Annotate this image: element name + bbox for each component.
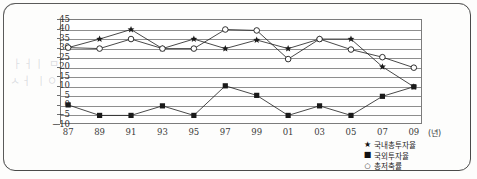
data-point-marker <box>380 54 386 60</box>
data-point-marker <box>222 27 228 33</box>
data-point-marker <box>190 35 197 42</box>
legend-item: ○총저축률 <box>362 161 468 171</box>
legend-marker-icon: ○ <box>362 162 373 170</box>
legend-item-label: 국외투자율 <box>373 150 409 161</box>
data-point-marker <box>97 46 103 52</box>
data-point-marker <box>317 103 322 108</box>
chart-legend: ★국내총투자율■국외투자율○총저축률 <box>362 140 468 172</box>
data-point-marker <box>128 36 134 42</box>
line-chart: 454035302520151050−5−1087899193959799010… <box>36 14 436 126</box>
data-point-marker <box>65 45 71 51</box>
data-point-marker <box>128 113 133 118</box>
series-line <box>68 30 414 87</box>
legend-item: ★국내총투자율 <box>362 140 468 150</box>
data-point-marker <box>286 113 291 118</box>
data-point-marker <box>96 35 103 42</box>
data-point-marker <box>285 56 291 62</box>
data-point-marker <box>285 45 292 52</box>
data-point-marker <box>411 84 416 89</box>
legend-item: ■국외투자율 <box>362 151 468 161</box>
legend-item-label: 국내총투자율 <box>373 139 416 150</box>
data-point-marker <box>160 46 166 52</box>
data-point-marker <box>348 47 354 53</box>
data-point-marker <box>66 102 71 107</box>
data-point-marker <box>411 65 417 71</box>
data-point-marker <box>254 93 259 98</box>
chart-series-layer <box>36 14 436 129</box>
data-point-marker <box>191 46 197 52</box>
data-point-marker <box>348 113 353 118</box>
legend-marker-icon: ■ <box>362 151 373 159</box>
data-point-marker <box>317 36 323 42</box>
scanned-page: ㅏㅓㅣ ㅁㅅㅇ ㅇㅣㅁ ㅅㅓ ㅣㅇㅁ ㅡㅅ ㅣㅇ 454035302520151… <box>0 0 477 179</box>
data-point-marker <box>254 28 260 34</box>
data-point-marker <box>223 83 228 88</box>
legend-marker-icon: ★ <box>362 141 373 149</box>
data-point-marker <box>97 113 102 118</box>
data-point-marker <box>160 103 165 108</box>
data-point-marker <box>128 26 135 33</box>
data-point-marker <box>222 45 229 52</box>
series-line <box>68 86 414 116</box>
legend-item-label: 총저축률 <box>373 160 402 171</box>
data-point-marker <box>253 36 260 43</box>
x-axis-unit-label: (년) <box>428 127 441 138</box>
data-point-marker <box>380 94 385 99</box>
data-point-marker <box>191 113 196 118</box>
